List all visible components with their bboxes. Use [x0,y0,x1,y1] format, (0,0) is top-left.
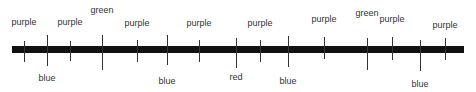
marker-tick [167,35,168,65]
marker-tick [102,35,103,70]
timeline-bar [12,46,464,53]
marker-tick [47,35,48,66]
marker-tick [199,40,200,62]
marker-tick [367,38,368,70]
marker-label-purple: purple [11,17,36,27]
marker-label-purple: purple [247,18,272,28]
marker-tick [392,37,393,60]
marker-tick [445,38,446,60]
marker-tick [420,40,421,71]
marker-tick [24,41,25,62]
marker-tick [260,40,261,62]
marker-label-green: green [90,5,113,15]
marker-tick [288,36,289,67]
marker-tick [324,37,325,59]
marker-label-blue: blue [279,76,296,86]
marker-label-purple: purple [432,20,457,30]
marker-label-purple: purple [57,17,82,27]
marker-tick [236,38,237,68]
marker-label-red: red [229,72,242,82]
marker-label-purple: purple [186,18,211,28]
marker-label-purple: purple [311,14,336,24]
marker-tick [70,41,71,61]
marker-tick [137,40,138,62]
marker-label-purple: purple [379,14,404,24]
marker-label-blue: blue [158,76,175,86]
marker-label-blue: blue [38,73,55,83]
marker-label-blue: blue [411,79,428,89]
marker-label-green: green [355,8,378,18]
marker-label-purple: purple [124,18,149,28]
timeline-diagram: purplebluepurplegreenpurplebluepurplered… [0,0,476,92]
